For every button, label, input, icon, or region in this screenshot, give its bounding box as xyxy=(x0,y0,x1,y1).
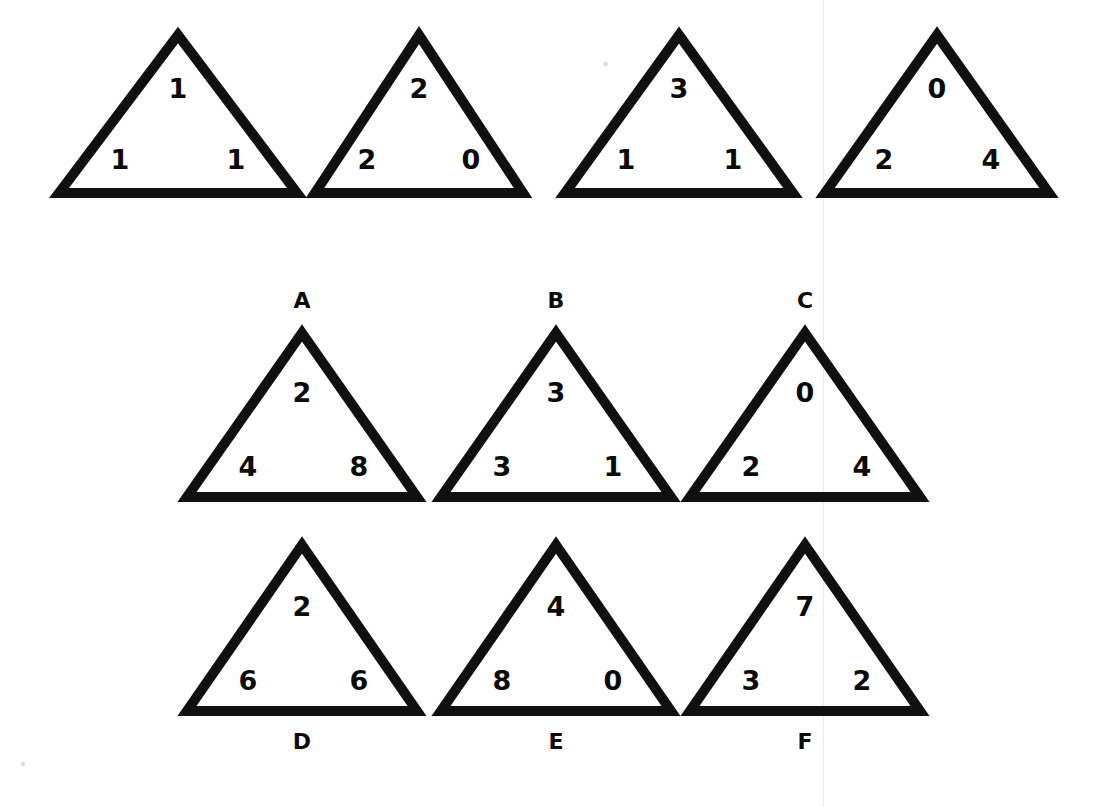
triangle-bottom-right-number: 1 xyxy=(604,453,623,480)
triangle-top-number: 2 xyxy=(410,75,429,102)
puzzle-stage: 1 1 1 2 2 0 3 1 1 0 2 4 A B C 2 4 8 xyxy=(0,0,1108,807)
triangle-bottom-right-number: 4 xyxy=(853,453,872,480)
triangle-top-number: 0 xyxy=(928,75,947,102)
triangle-bottom-left-number: 8 xyxy=(493,667,512,694)
triangle-bottom-left-number: 3 xyxy=(742,667,761,694)
triangle-bottom-left-number: 2 xyxy=(742,453,761,480)
triangle-bottom-right-number: 1 xyxy=(227,146,246,173)
triangle-bottom-left-number: 3 xyxy=(493,453,512,480)
option-label-d: D xyxy=(293,731,311,753)
triangle-top-number: 4 xyxy=(547,593,566,620)
triangle-option-a[interactable]: 2 4 8 xyxy=(180,326,424,504)
triangle-bottom-right-number: 4 xyxy=(982,146,1001,173)
triangle-top-number: 3 xyxy=(670,75,689,102)
triangle-option-e[interactable]: 4 8 0 xyxy=(434,538,678,718)
triangle-sequence-2: 2 2 0 xyxy=(308,28,530,200)
triangle-option-c[interactable]: 0 2 4 xyxy=(683,326,927,504)
triangle-sequence-4: 0 2 4 xyxy=(818,28,1056,200)
triangle-option-f[interactable]: 7 3 2 xyxy=(683,538,927,718)
triangle-bottom-right-number: 6 xyxy=(350,667,369,694)
triangle-top-number: 2 xyxy=(293,593,312,620)
triangle-bottom-right-number: 1 xyxy=(724,146,743,173)
option-label-a: A xyxy=(293,290,310,312)
option-label-f: F xyxy=(797,731,812,753)
option-label-b: B xyxy=(548,290,565,312)
triangle-sequence-1: 1 1 1 xyxy=(52,28,304,200)
triangle-option-b[interactable]: 3 3 1 xyxy=(434,326,678,504)
triangle-bottom-left-number: 2 xyxy=(358,146,377,173)
triangle-top-number: 1 xyxy=(169,75,188,102)
triangle-bottom-left-number: 1 xyxy=(617,146,636,173)
option-label-c: C xyxy=(797,290,813,312)
scan-speck xyxy=(21,762,25,766)
triangle-sequence-3: 3 1 1 xyxy=(558,28,800,200)
triangle-top-number: 7 xyxy=(796,593,815,620)
triangle-bottom-right-number: 0 xyxy=(462,146,481,173)
triangle-bottom-right-number: 0 xyxy=(604,667,623,694)
triangle-bottom-left-number: 1 xyxy=(111,146,130,173)
triangle-bottom-right-number: 2 xyxy=(853,667,872,694)
triangle-bottom-left-number: 2 xyxy=(875,146,894,173)
triangle-bottom-left-number: 4 xyxy=(239,453,258,480)
triangle-bottom-right-number: 8 xyxy=(350,453,369,480)
option-label-e: E xyxy=(548,731,563,753)
triangle-top-number: 3 xyxy=(547,379,566,406)
triangle-top-number: 0 xyxy=(796,379,815,406)
triangle-option-d[interactable]: 2 6 6 xyxy=(180,538,424,718)
triangle-top-number: 2 xyxy=(293,379,312,406)
triangle-bottom-left-number: 6 xyxy=(239,667,258,694)
